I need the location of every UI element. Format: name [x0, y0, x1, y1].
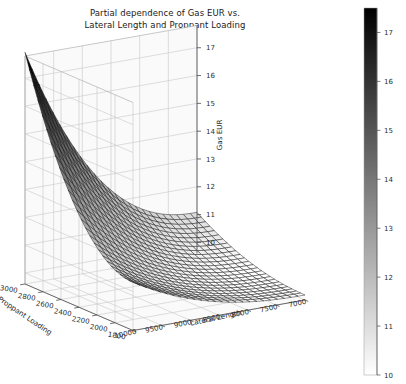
- colorbar-tick-label: 16: [384, 78, 393, 86]
- colorbar-gradient-bar: [364, 8, 377, 375]
- colorbar-tick-label: 11: [384, 323, 393, 331]
- figure-canvas: Partial dependence of Gas EUR vs. Latera…: [0, 0, 406, 384]
- colorbar: 1011121314151617: [0, 0, 406, 384]
- colorbar-tick-label: 15: [384, 127, 393, 135]
- colorbar-tick-label: 10: [384, 372, 393, 380]
- colorbar-tick-label: 14: [384, 176, 393, 184]
- colorbar-tick-label: 13: [384, 225, 393, 233]
- colorbar-tick-label: 12: [384, 274, 393, 282]
- colorbar-tick-label: 17: [384, 29, 393, 37]
